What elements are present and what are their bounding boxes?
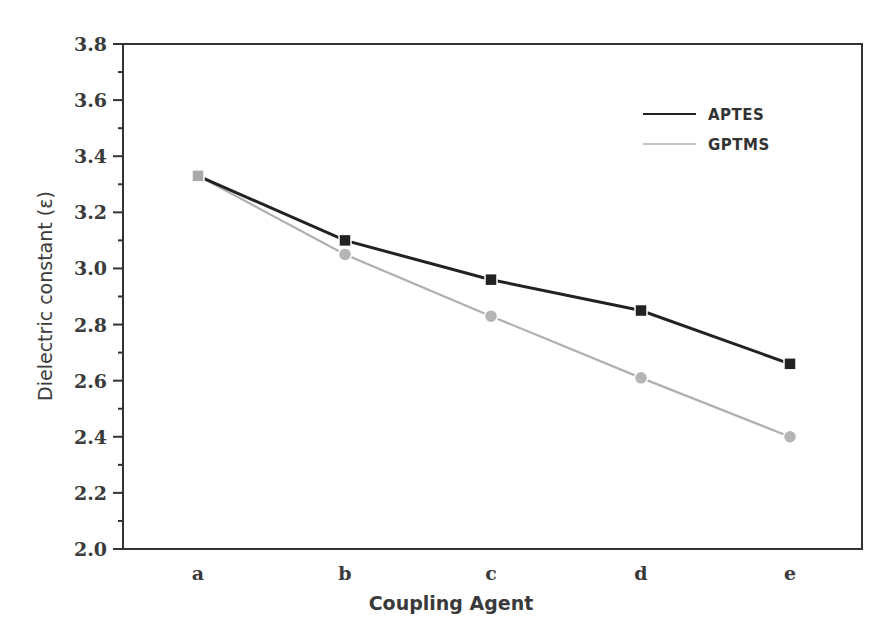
x-category-label: b: [338, 562, 351, 584]
y-tick-label: 2.6: [74, 370, 107, 392]
data-point-square: [339, 234, 351, 246]
x-category-label: c: [485, 562, 497, 584]
y-tick-label: 2.0: [74, 538, 107, 560]
x-category-label: a: [192, 562, 204, 584]
data-point-square: [192, 170, 204, 182]
data-point-circle: [339, 248, 352, 261]
x-category-label: d: [634, 562, 647, 584]
x-category-label: e: [784, 562, 796, 584]
y-tick-label: 3.6: [74, 89, 107, 111]
data-point-circle: [485, 310, 498, 323]
series-aptes: [192, 170, 796, 370]
data-point-square: [635, 305, 647, 317]
y-tick-label: 2.4: [74, 426, 107, 448]
data-series: [192, 170, 797, 443]
data-point-square: [784, 358, 796, 370]
line-chart: 2.02.22.42.62.83.03.23.43.63.8 abcde Die…: [0, 0, 890, 642]
legend-label: APTES: [708, 106, 764, 124]
legend: APTESGPTMS: [643, 106, 770, 154]
y-tick-label: 3.0: [74, 257, 107, 279]
legend-label: GPTMS: [708, 136, 770, 154]
y-axis-title: Dielectric constant (ε): [34, 191, 56, 401]
y-tick-label: 3.4: [74, 145, 107, 167]
y-tick-label: 3.2: [74, 201, 107, 223]
y-axis: 2.02.22.42.62.83.03.23.43.63.8: [74, 33, 123, 560]
data-point-square: [485, 274, 497, 286]
y-tick-label: 2.8: [74, 314, 107, 336]
y-tick-label: 2.2: [74, 482, 107, 504]
x-axis: abcde: [192, 562, 796, 584]
x-axis-title: Coupling Agent: [369, 592, 534, 614]
legend-item-aptes: APTES: [643, 106, 764, 124]
y-tick-label: 3.8: [74, 33, 107, 55]
legend-item-gptms: GPTMS: [643, 136, 770, 154]
data-point-circle: [635, 371, 648, 384]
data-point-circle: [784, 430, 797, 443]
series-line: [198, 176, 790, 364]
